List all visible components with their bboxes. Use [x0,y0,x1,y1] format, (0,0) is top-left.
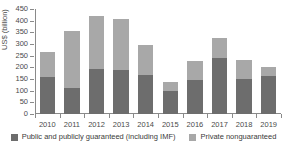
y-tick-label: 0 [24,110,28,118]
bar-segment-png[interactable] [261,67,276,75]
y-tick-label: 350 [15,28,28,36]
y-tick-label: 100 [15,87,28,95]
bar-group[interactable] [64,31,79,114]
y-tick-mark [30,102,34,103]
bar-group[interactable] [113,19,128,114]
x-tick-mark [35,114,36,118]
y-tick-mark [30,114,34,115]
y-tick-mark [30,79,34,80]
bar-segment-ppg[interactable] [236,79,251,114]
bar-group[interactable] [163,82,178,114]
y-tick-label: 250 [15,52,28,60]
x-tick-label: 2012 [88,120,105,129]
bar-segment-ppg[interactable] [89,69,104,114]
bar-segment-png[interactable] [113,19,128,70]
x-tick-label: 2015 [162,120,179,129]
y-tick-mark [30,44,34,45]
bar-group[interactable] [138,45,153,114]
y-tick-mark [30,56,34,57]
y-axis-title: US$ (billion) [1,9,9,50]
x-tick-mark [183,114,184,118]
legend-item-png[interactable]: Private nonguaranteed [189,132,276,142]
x-tick-mark [60,114,61,118]
bar-segment-png[interactable] [89,16,104,69]
bar-group[interactable] [212,38,227,114]
bar-segment-ppg[interactable] [64,88,79,114]
bar-segment-png[interactable] [64,31,79,88]
bar-segment-ppg[interactable] [187,80,202,114]
x-tick-label: 2011 [64,120,80,129]
x-tick-label: 2013 [113,120,130,129]
x-tick-mark [232,114,233,118]
bar-group[interactable] [89,16,104,114]
legend-swatch-png [189,134,196,141]
x-tick-label: 2016 [187,120,204,129]
y-tick-label: 200 [15,63,28,71]
bar-segment-ppg[interactable] [163,91,178,114]
bar-group[interactable] [187,61,202,114]
y-tick-mark [30,9,34,10]
bar-segment-png[interactable] [212,38,227,58]
plot-area: 050100150200250300350400450 201020112012… [35,9,281,114]
bar-group[interactable] [40,52,55,114]
bar-segment-png[interactable] [138,45,153,75]
bar-segment-ppg[interactable] [113,70,128,114]
legend-label-ppg: Public and publicly guaranteed (includin… [22,132,176,142]
x-tick-label: 2014 [137,120,154,129]
x-tick-label: 2018 [236,120,253,129]
y-tick-mark [30,91,34,92]
bar-segment-png[interactable] [236,60,251,79]
bar-group[interactable] [261,67,276,114]
bar-segment-png[interactable] [163,82,178,91]
x-tick-mark [158,114,159,118]
legend-item-ppg[interactable]: Public and publicly guaranteed (includin… [11,132,176,142]
chart-figure: US$ (billion) 05010015020025030035040045… [0,0,287,151]
y-tick-label: 300 [15,40,28,48]
y-tick-label: 150 [15,75,28,83]
bar-segment-png[interactable] [187,61,202,80]
x-tick-mark [281,114,282,118]
chart-legend: Public and publicly guaranteed (includin… [0,132,287,142]
y-tick-label: 400 [15,17,28,25]
y-tick-mark [30,32,34,33]
x-tick-label: 2010 [39,120,56,129]
x-tick-mark [109,114,110,118]
y-tick-mark [30,21,34,22]
bar-segment-ppg[interactable] [212,58,227,114]
x-tick-mark [84,114,85,118]
x-tick-label: 2017 [211,120,228,129]
bar-segment-ppg[interactable] [261,76,276,115]
legend-label-png: Private nonguaranteed [200,132,276,142]
bar-group[interactable] [236,60,251,114]
y-tick-mark [30,67,34,68]
bar-segment-ppg[interactable] [40,77,55,114]
legend-swatch-ppg [11,134,18,141]
bar-segment-png[interactable] [40,52,55,77]
x-tick-mark [133,114,134,118]
x-tick-label: 2019 [260,120,277,129]
y-tick-label: 450 [15,5,28,13]
y-tick-label: 50 [20,98,28,106]
x-tick-mark [256,114,257,118]
bar-segment-ppg[interactable] [138,75,153,114]
x-tick-mark [207,114,208,118]
